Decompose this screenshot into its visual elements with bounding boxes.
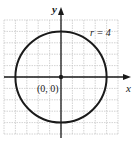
circle-diagram: x y (0, 0) r = 4	[0, 0, 139, 142]
y-axis-label: y	[50, 3, 57, 15]
axes	[4, 7, 131, 138]
radius-label: r = 4	[90, 27, 111, 38]
y-axis-arrow-icon	[58, 7, 64, 15]
center-point	[59, 75, 63, 79]
x-axis-label: x	[125, 82, 131, 94]
center-label: (0, 0)	[37, 83, 59, 95]
x-axis-arrow-icon	[123, 74, 131, 80]
